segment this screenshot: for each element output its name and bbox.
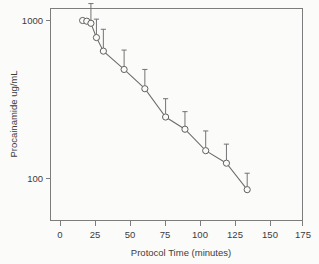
x-tick-label-175: 175 — [295, 229, 311, 240]
x-tick-label-100: 100 — [192, 229, 208, 240]
data-point-marker — [244, 187, 250, 193]
y-tick-label-1000: 1000 — [22, 15, 43, 26]
x-tick-label-25: 25 — [90, 229, 101, 240]
data-point-marker — [223, 160, 229, 166]
x-tick-label-0: 0 — [57, 229, 62, 240]
data-point-marker — [203, 148, 209, 154]
x-tick-label-125: 125 — [227, 229, 243, 240]
y-axis-title: Procainamide ug/mL — [8, 70, 19, 157]
y-axis-ticks — [46, 21, 50, 179]
data-point-marker — [100, 48, 106, 54]
x-axis-title: Protocol Time (minutes) — [131, 247, 231, 258]
data-point-marker — [142, 86, 148, 92]
data-point-marker — [88, 20, 94, 26]
data-point-marker — [182, 126, 188, 132]
y-tick-label-100: 100 — [27, 173, 43, 184]
x-axis-ticks — [61, 221, 303, 226]
x-tick-label-75: 75 — [160, 229, 171, 240]
x-tick-label-150: 150 — [262, 229, 278, 240]
data-point-marker — [163, 114, 169, 120]
x-tick-label-50: 50 — [125, 229, 136, 240]
procainamide-concentration-chart: 1000 100 Procainamide ug/mL 0 25 50 75 1… — [0, 0, 319, 264]
data-point-marker — [93, 34, 99, 40]
figure-container: 1000 100 Procainamide ug/mL 0 25 50 75 1… — [0, 0, 319, 264]
plot-area-background — [50, 8, 303, 221]
data-point-marker — [121, 66, 127, 72]
